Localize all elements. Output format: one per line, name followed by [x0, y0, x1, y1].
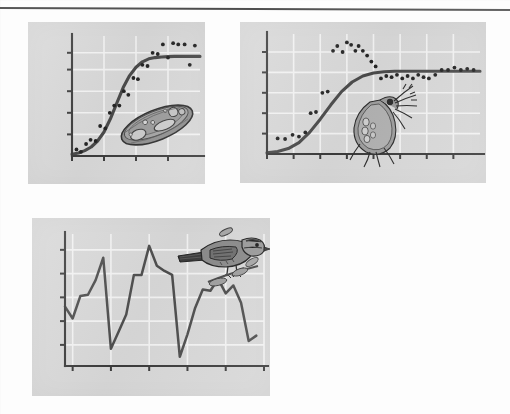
- data-point: [422, 75, 426, 79]
- data-point: [365, 54, 369, 58]
- data-point: [369, 60, 373, 64]
- data-point: [303, 131, 307, 135]
- data-point: [291, 133, 295, 137]
- data-point: [141, 63, 145, 67]
- data-point: [427, 77, 431, 81]
- data-point: [354, 49, 358, 53]
- top-divider-rule: [0, 7, 510, 11]
- data-point: [161, 43, 165, 47]
- data-point: [395, 73, 399, 77]
- data-point: [156, 52, 160, 56]
- data-point: [331, 49, 335, 53]
- data-point: [440, 68, 444, 72]
- data-point: [146, 64, 150, 68]
- data-point: [132, 76, 136, 80]
- data-point: [400, 77, 404, 81]
- chart-sparrow-svg: [32, 218, 270, 396]
- data-point: [465, 67, 469, 71]
- data-point: [188, 63, 192, 67]
- data-point: [108, 111, 112, 115]
- data-point: [314, 110, 318, 114]
- data-point: [94, 139, 98, 143]
- data-point: [103, 127, 107, 131]
- data-point: [384, 74, 388, 78]
- panel-sparrow-irregular-fluctuation: [32, 218, 270, 396]
- data-point: [297, 135, 301, 139]
- data-point: [416, 73, 420, 77]
- data-point: [379, 77, 383, 81]
- data-point: [126, 93, 130, 97]
- data-point: [374, 65, 378, 69]
- data-point: [411, 77, 415, 81]
- chart-daphnia-svg: [240, 22, 486, 183]
- data-point: [171, 41, 175, 45]
- population-series-line: [65, 246, 256, 357]
- data-point: [98, 124, 102, 128]
- chart-sparrow: [32, 218, 270, 396]
- data-point: [276, 137, 280, 141]
- data-point: [320, 91, 324, 95]
- data-point: [335, 44, 339, 48]
- data-point: [89, 138, 93, 142]
- data-point: [176, 43, 180, 47]
- chart-bacteria: [28, 22, 205, 184]
- data-point: [84, 142, 88, 146]
- data-point: [122, 89, 126, 93]
- chart-daphnia: [240, 22, 486, 183]
- data-point: [326, 90, 330, 94]
- panel-bacteria-logistic-growth: [28, 22, 205, 184]
- data-point: [433, 73, 437, 77]
- data-point: [117, 104, 121, 108]
- data-point: [166, 56, 170, 60]
- data-point: [75, 148, 79, 152]
- data-point: [390, 75, 394, 79]
- data-point: [79, 150, 83, 154]
- data-point: [446, 68, 450, 72]
- data-point: [112, 104, 116, 108]
- data-point: [309, 111, 313, 115]
- data-point: [472, 68, 476, 72]
- data-point: [345, 41, 349, 45]
- chart-bacteria-svg: [28, 22, 205, 184]
- data-point: [453, 66, 457, 70]
- data-point: [283, 137, 287, 141]
- data-point: [193, 44, 197, 48]
- data-point: [406, 74, 410, 78]
- data-point: [341, 50, 345, 54]
- data-point: [183, 43, 187, 47]
- data-point: [357, 44, 361, 48]
- data-point: [136, 77, 140, 81]
- data-point: [349, 43, 353, 47]
- data-point: [361, 49, 365, 53]
- data-point: [151, 51, 155, 55]
- panel-daphnia-overshoot-growth: [240, 22, 486, 183]
- data-point: [459, 68, 463, 72]
- figure-page: [0, 0, 510, 414]
